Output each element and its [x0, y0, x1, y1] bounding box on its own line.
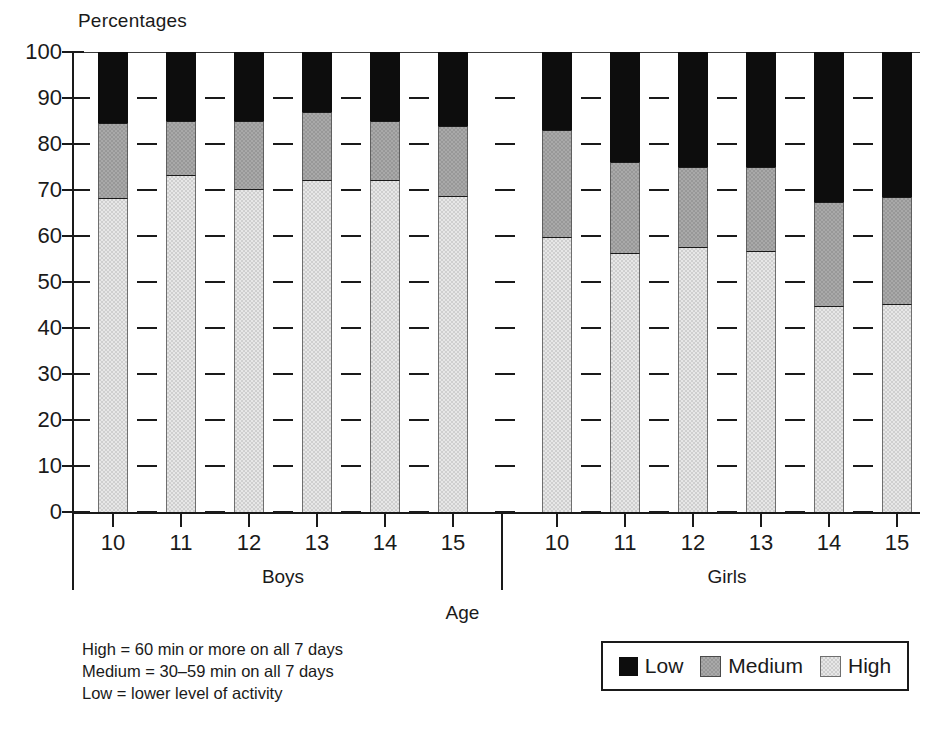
x-tick-10 — [828, 514, 830, 527]
gridline-stub — [495, 235, 515, 237]
gridline-stub — [409, 327, 429, 329]
gridline-stub — [649, 373, 669, 375]
gridline-stub — [137, 235, 157, 237]
gridline-stub — [649, 419, 669, 421]
gridline-stub — [74, 465, 90, 467]
gridline-stub — [74, 143, 90, 145]
y-axis-title: Percentages — [78, 10, 187, 32]
bar-girls-age-10 — [542, 52, 572, 512]
x-tick-9 — [760, 514, 762, 527]
gridline-stub — [273, 327, 293, 329]
x-tick-5 — [452, 514, 454, 527]
gridline-stub — [205, 189, 225, 191]
gridline-stub — [853, 281, 873, 283]
gridline-stub — [341, 281, 361, 283]
gridline-stub — [581, 281, 601, 283]
gridline-stub — [74, 281, 90, 283]
x-tick-label-girls-10: 10 — [535, 530, 579, 556]
gridline-stub — [785, 281, 805, 283]
bar-segment-low — [166, 52, 196, 121]
bar-girls-age-15 — [882, 52, 912, 512]
bar-segment-low — [882, 52, 912, 197]
gridline-stub — [74, 419, 90, 421]
y-tick-label-90: 90 — [2, 87, 62, 109]
gridline-stub — [649, 235, 669, 237]
x-axis-band: 101112131415101112131415BoysGirls — [72, 514, 920, 606]
legend-label-medium: Medium — [728, 654, 803, 678]
gridline-stub — [205, 511, 225, 513]
gridline-stub — [785, 511, 805, 513]
group-separator-1 — [501, 514, 503, 590]
legend-swatch-high-icon — [820, 656, 841, 677]
bar-segment-medium — [882, 197, 912, 305]
gridline-stub — [717, 189, 737, 191]
bar-segment-low — [370, 52, 400, 121]
gridline-stub — [495, 373, 515, 375]
gridline-stub — [581, 143, 601, 145]
bar-segment-medium — [438, 126, 468, 197]
gridline-stub — [205, 465, 225, 467]
x-tick-label-girls-12: 12 — [671, 530, 715, 556]
gridline-stub — [341, 235, 361, 237]
gridline-stub — [205, 97, 225, 99]
gridline-stub — [785, 373, 805, 375]
gridline-stub — [785, 327, 805, 329]
gridline-stub — [273, 511, 293, 513]
legend-item-low: Low — [619, 654, 684, 678]
gridline-stub — [717, 327, 737, 329]
gridline-stub — [341, 511, 361, 513]
gridline-stub — [137, 327, 157, 329]
x-tick-0 — [112, 514, 114, 527]
y-tick-label-100: 100 — [2, 41, 62, 63]
gridline-stub — [205, 235, 225, 237]
legend-label-high: High — [848, 654, 891, 678]
gridline-stub — [205, 327, 225, 329]
gridline-stub — [649, 143, 669, 145]
group-label-boys: Boys — [173, 566, 393, 588]
gridline-stub — [409, 465, 429, 467]
y-tick-label-50: 50 — [2, 271, 62, 293]
gridline-stub — [409, 373, 429, 375]
gridline-stub — [785, 143, 805, 145]
legend-label-low: Low — [645, 654, 684, 678]
x-tick-7 — [624, 514, 626, 527]
footnote-block: High = 60 min or more on all 7 days Medi… — [82, 638, 343, 704]
gridline-stub — [785, 235, 805, 237]
gridline-stub — [853, 327, 873, 329]
bar-segment-medium — [542, 130, 572, 238]
bar-boys-age-15 — [438, 52, 468, 512]
y-tick-label-20: 20 — [2, 409, 62, 431]
bar-segment-medium — [234, 121, 264, 190]
gridline-stub — [409, 189, 429, 191]
gridline-stub — [341, 327, 361, 329]
bar-segment-high — [370, 181, 400, 512]
gridline-stub — [717, 419, 737, 421]
gridline-stub — [717, 511, 737, 513]
gridline-stub — [717, 235, 737, 237]
bar-segment-low — [746, 52, 776, 167]
bar-segment-low — [678, 52, 708, 167]
x-tick-1 — [180, 514, 182, 527]
x-tick-label-boys-12: 12 — [227, 530, 271, 556]
gridline-stub — [137, 189, 157, 191]
x-tick-label-boys-14: 14 — [363, 530, 407, 556]
gridline-stub — [495, 327, 515, 329]
gridline-stub — [137, 465, 157, 467]
x-tick-label-boys-10: 10 — [91, 530, 135, 556]
gridline-stub — [581, 373, 601, 375]
y-tick-100 — [62, 51, 84, 53]
gridline-stub — [74, 373, 90, 375]
legend-item-high: High — [820, 654, 891, 678]
gridline-stub — [273, 465, 293, 467]
bar-girls-age-12 — [678, 52, 708, 512]
bar-segment-high — [98, 199, 128, 512]
x-tick-label-boys-13: 13 — [295, 530, 339, 556]
gridline-stub — [581, 235, 601, 237]
bar-segment-high — [438, 197, 468, 512]
gridline-stub — [495, 97, 515, 99]
gridline-stub — [74, 327, 90, 329]
gridline-stub — [581, 419, 601, 421]
gridline-stub — [74, 511, 90, 513]
gridline-stub — [137, 143, 157, 145]
gridline-stub — [495, 465, 515, 467]
